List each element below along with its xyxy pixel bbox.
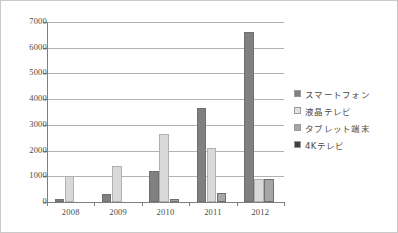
bar	[254, 179, 264, 202]
bar	[244, 32, 254, 202]
bar-group-2008	[55, 22, 95, 202]
bar-group-2009	[102, 22, 142, 202]
bar-group-2011	[197, 22, 237, 202]
x-tick-mark	[237, 202, 238, 206]
x-axis-line	[47, 202, 285, 203]
plot-area	[47, 22, 284, 202]
legend-swatch-icon	[294, 141, 301, 148]
y-tick-label: 6000	[7, 43, 47, 52]
y-tick-label: 4000	[7, 94, 47, 103]
bar-chart: 01000200030004000500060007000 2008200920…	[1, 1, 398, 233]
y-tick-label: 3000	[7, 120, 47, 129]
legend-item[interactable]: タブレット端末	[294, 119, 394, 136]
legend-swatch-icon	[294, 107, 301, 114]
bar	[112, 166, 122, 202]
legend-item[interactable]: 4Kテレビ	[294, 136, 394, 153]
legend-label: 液晶テレビ	[305, 105, 352, 117]
y-tick-label: 0	[7, 197, 47, 206]
chart-legend: スマートフォン液晶テレビタブレット端末4Kテレビ	[294, 85, 394, 153]
bar	[102, 194, 112, 202]
bar	[217, 193, 227, 202]
x-tick-mark	[284, 202, 285, 206]
x-tick-mark	[142, 202, 143, 206]
chart-screenshot: 01000200030004000500060007000 2008200920…	[0, 0, 398, 233]
x-tick-label-2012: 2012	[230, 208, 290, 217]
bar-group-2012	[244, 22, 284, 202]
x-tick-mark	[94, 202, 95, 206]
legend-swatch-icon	[294, 124, 301, 131]
bar	[197, 108, 207, 202]
y-tick-label: 7000	[7, 17, 47, 26]
y-tick-label: 2000	[7, 146, 47, 155]
legend-item[interactable]: スマートフォン	[294, 85, 394, 102]
legend-label: タブレット端末	[305, 122, 370, 134]
legend-item[interactable]: 液晶テレビ	[294, 102, 394, 119]
legend-label: 4Kテレビ	[305, 139, 344, 151]
legend-label: スマートフォン	[305, 88, 370, 100]
y-tick-label: 1000	[7, 171, 47, 180]
bar	[159, 134, 169, 202]
bar	[170, 199, 180, 202]
legend-swatch-icon	[294, 90, 301, 97]
y-tick-label: 5000	[7, 68, 47, 77]
x-tick-mark	[47, 202, 48, 206]
bar	[65, 176, 75, 202]
x-tick-mark	[189, 202, 190, 206]
bar	[55, 199, 65, 202]
bar	[207, 148, 217, 202]
bar	[149, 171, 159, 202]
bar-group-2010	[149, 22, 189, 202]
bar	[264, 179, 274, 202]
